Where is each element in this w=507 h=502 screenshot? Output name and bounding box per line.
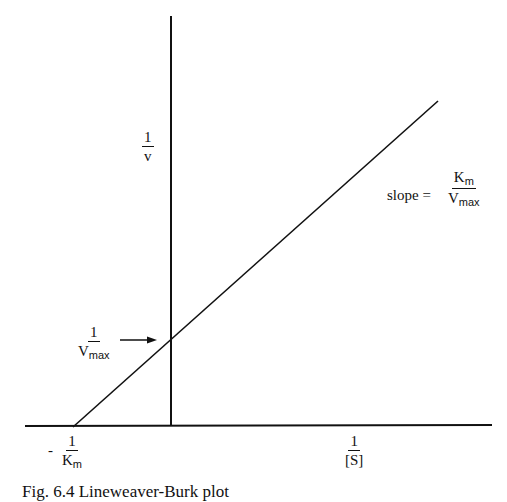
slope-km-sub: m (465, 175, 474, 187)
x-intercept-sign: - (48, 442, 53, 459)
vmax-v: V (78, 343, 89, 359)
y-label-denominator: v (144, 147, 152, 164)
y-label-numerator: 1 (142, 130, 154, 147)
slope-numerator: Km (452, 170, 476, 189)
vmax-sub: max (89, 349, 110, 361)
figure-caption: Fig. 6.4 Lineweaver-Burk plot (22, 482, 229, 502)
x-intercept-label: 1 Km (62, 434, 82, 470)
x-intercept-denominator: Km (62, 451, 82, 470)
x-label-denominator: [S] (345, 451, 363, 468)
x-intercept-numerator: 1 (66, 434, 78, 451)
slope-fraction: Km Vmax (448, 170, 480, 208)
y-intercept-denominator: Vmax (78, 342, 110, 361)
x-axis-label: 1 [S] (345, 434, 363, 468)
x-axis (25, 425, 492, 426)
x-label-numerator: 1 (348, 434, 360, 451)
km-k: K (62, 452, 73, 468)
slope-prefix: slope = (387, 187, 431, 204)
y-axis-label: 1 v (142, 130, 154, 164)
km-sub: m (73, 458, 82, 470)
slope-km-k: K (454, 169, 465, 185)
slope-vmax-v: V (448, 190, 459, 206)
slope-denominator: Vmax (448, 189, 480, 208)
slope-vmax-sub: max (459, 196, 480, 208)
arrow-icon (120, 337, 157, 344)
regression-line (73, 101, 438, 427)
y-intercept-label: 1 Vmax (78, 325, 110, 361)
y-intercept-numerator: 1 (88, 325, 100, 342)
